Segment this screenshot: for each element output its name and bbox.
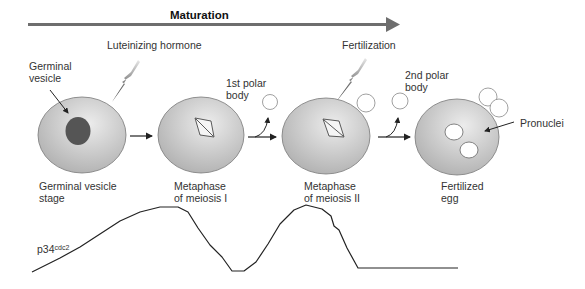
luteinizing-hormone-label: Luteinizing hormone xyxy=(107,39,202,51)
germinal-vesicle-annotation: Germinal vesicle xyxy=(29,60,72,84)
germinal-vesicle-nucleus xyxy=(66,117,91,145)
second-polar-body-label: 2nd polar body xyxy=(405,69,449,93)
pronucleus xyxy=(445,124,463,140)
stage-arrow-3 xyxy=(378,118,410,137)
cell-fertilized-egg xyxy=(415,88,514,175)
stage-label-metaphase-2: Metaphase of meiosis II xyxy=(304,180,360,204)
cell-metaphase-meiosis-2 xyxy=(282,94,375,174)
stage-label-fertilized-egg: Fertilized egg xyxy=(441,180,484,204)
pronuclei-label: Pronuclei xyxy=(520,117,564,129)
cell-germinal-vesicle-stage xyxy=(38,90,126,173)
first-polar-body-label: 1st polar body xyxy=(226,77,266,101)
pronucleus xyxy=(460,142,478,158)
stage-arrow-2 xyxy=(248,118,276,137)
maturation-title: Maturation xyxy=(170,9,229,21)
stage-label-metaphase-1: Metaphase of meiosis I xyxy=(174,180,227,204)
fertilization-label: Fertilization xyxy=(342,39,396,51)
cell-metaphase-meiosis-1 xyxy=(158,97,244,173)
p34cdc2-activity-curve xyxy=(32,205,458,272)
oocyte-maturation-diagram: Maturation Luteinizing hormone Fertiliza… xyxy=(0,0,585,289)
luteinizing-hormone-bolt-icon xyxy=(112,60,140,102)
stage-label-germinal-vesicle: Germinal vesicle stage xyxy=(39,180,117,204)
p34cdc2-label: p34cdc2 xyxy=(37,243,69,255)
second-polar-body xyxy=(392,93,408,109)
